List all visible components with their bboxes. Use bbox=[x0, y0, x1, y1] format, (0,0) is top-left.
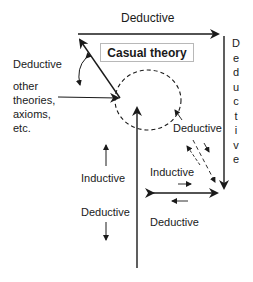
right-inductive-label: Inductive bbox=[150, 166, 194, 179]
right-vertical-deductive-label: D e d u c t i v e bbox=[230, 36, 242, 167]
other-theories-arrow bbox=[58, 97, 118, 98]
curved-double-arrow bbox=[79, 58, 86, 85]
inner-deductive-label: Deductive bbox=[173, 122, 222, 135]
letter: d bbox=[230, 65, 242, 80]
top-deductive-label: Deductive bbox=[121, 12, 174, 25]
left-lower-deductive-label: Deductive bbox=[81, 206, 130, 219]
dashed-arrow-down-2 bbox=[193, 140, 215, 182]
letter: e bbox=[230, 51, 242, 66]
bottom-right-deductive-label: Deductive bbox=[150, 216, 199, 229]
letter: i bbox=[230, 123, 242, 138]
letter: v bbox=[230, 138, 242, 153]
letter: D bbox=[230, 36, 242, 51]
left-inductive-label: Inductive bbox=[81, 172, 125, 185]
letter: e bbox=[230, 152, 242, 167]
other-sources-line-3: axioms, bbox=[13, 108, 51, 121]
letter: u bbox=[230, 80, 242, 95]
other-sources-line-2: theories, bbox=[13, 94, 55, 107]
other-sources-line-4: etc. bbox=[13, 122, 31, 135]
casual-theory-label: Casual theory bbox=[107, 46, 186, 60]
left-deductive-label: Deductive bbox=[13, 58, 62, 71]
dashed-arrow-down-1 bbox=[204, 143, 209, 152]
other-sources-line-1: other bbox=[13, 80, 38, 93]
casual-theory-box: Casual theory bbox=[100, 43, 194, 62]
dashed-ellipse bbox=[115, 70, 181, 130]
letter: c bbox=[230, 94, 242, 109]
letter: t bbox=[230, 109, 242, 124]
